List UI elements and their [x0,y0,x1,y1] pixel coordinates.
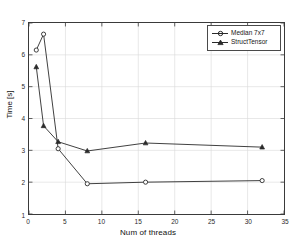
data-point [56,147,60,151]
y-tick-label: 7 [16,19,25,26]
legend-item: Median 7x7 [211,29,277,37]
data-point [260,178,264,182]
data-point [41,32,45,36]
data-point [143,180,147,184]
y-tick-label: 2 [16,179,25,186]
triangle-marker-icon [211,38,229,46]
y-tick-label: 4 [16,115,25,122]
legend-item: StructTensor [211,38,277,46]
x-axis-label: Num of threads [0,228,296,237]
legend-label: Median 7x7 [229,29,265,37]
x-tick-label: 25 [204,218,220,225]
series-line-1 [36,67,262,151]
y-axis-label: Time [s] [5,70,14,140]
legend-label: StructTensor [229,38,268,46]
y-tick-label: 5 [16,83,25,90]
data-point [34,48,38,52]
x-tick-label: 15 [130,218,146,225]
data-point [85,182,89,186]
y-tick-label: 3 [16,147,25,154]
x-tick-label: 5 [57,218,73,225]
x-tick-label: 35 [277,218,293,225]
chart-legend: Median 7x7 StructTensor [207,25,281,51]
data-series-layer [29,23,284,214]
x-tick-label: 30 [240,218,256,225]
y-tick-label: 6 [16,51,25,58]
x-tick-label: 0 [20,218,36,225]
series-line-0 [36,34,262,184]
chart-figure: Time [s] 1234567 05101520253035 Num of t… [0,0,296,246]
circle-marker-icon [211,29,229,37]
x-tick-label: 10 [93,218,109,225]
data-point [34,64,39,68]
data-point [41,123,46,127]
x-tick-label: 20 [167,218,183,225]
